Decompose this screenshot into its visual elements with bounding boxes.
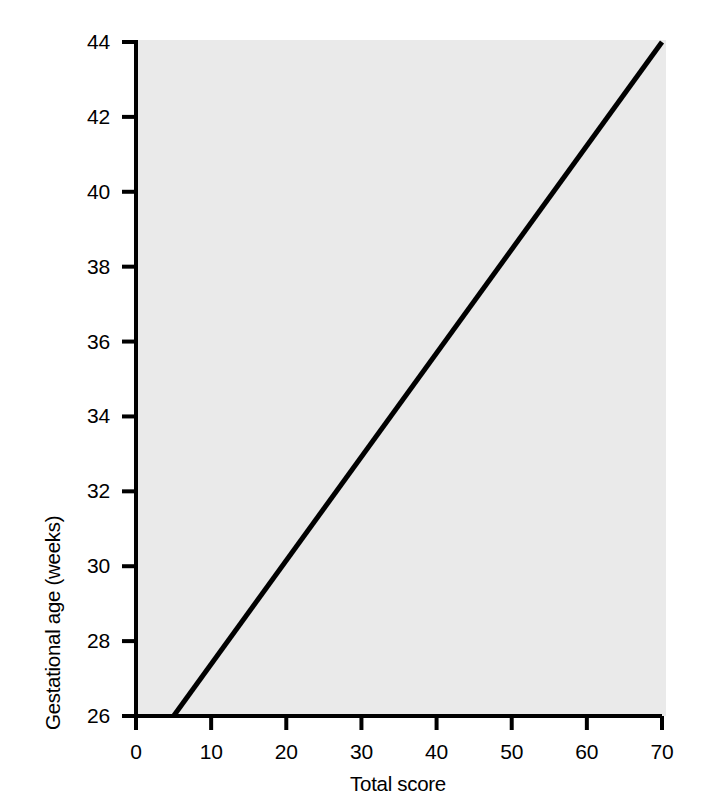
x-tick-label-40: 40 [407, 741, 467, 762]
x-axis-ticks [136, 716, 662, 730]
x-tick-label-60: 60 [557, 741, 617, 762]
chart-container: 26283032343638404244 010203040506070 Ges… [0, 0, 703, 806]
x-tick-label-0: 0 [106, 741, 166, 762]
x-tick-label-10: 10 [181, 741, 241, 762]
y-axis-ticks [122, 42, 136, 716]
x-tick-label-70: 70 [632, 741, 692, 762]
y-axis-title: Gestational age (weeks) [33, 30, 73, 730]
x-tick-label-50: 50 [482, 741, 542, 762]
x-axis-title: Total score [134, 772, 662, 796]
x-tick-label-30: 30 [331, 741, 391, 762]
x-axis-tick-labels: 010203040506070 [0, 741, 703, 771]
plot-area-background [138, 40, 666, 716]
x-tick-label-20: 20 [256, 741, 316, 762]
